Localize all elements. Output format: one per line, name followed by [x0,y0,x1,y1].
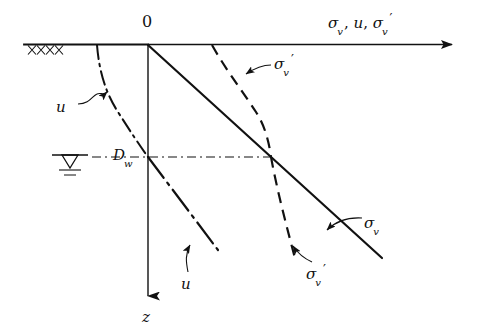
sigma-v-subscript: v [337,26,343,37]
axis-label-stresses: σv, u, σv′ [328,14,392,34]
stress-depth-diagram: σv, u, σv′ 0 Dw z u u σv σv′ σv′ [0,0,482,336]
curve-label-u-lower: u [181,275,191,293]
curve-u-below-water-table [148,157,218,250]
dw-subscript: w [124,158,133,169]
curve-label-sigma-v-eff-lower: σv′ [306,265,325,285]
u-symbol: u [353,14,363,32]
curve-label-u-upper: u [56,98,66,116]
leader-sigma-v-eff-upper [246,65,271,74]
leader-sigma-v-eff-lower [293,246,312,262]
curve-sigma-v-eff-above [212,45,271,157]
sigma-v-curve-subscript: v [373,226,379,237]
sigma-v-eff-curve-subscript-upper: v [283,67,289,78]
curve-label-sigma-v: σv [364,214,380,234]
leader-u-lower [186,245,190,272]
sigma-v-eff-curve-subscript-lower: v [315,277,321,288]
sigma-v-eff-prime: ′ [390,11,393,26]
sigma-v-eff-curve-prime-lower: ′ [323,262,326,277]
origin-label: 0 [142,12,152,31]
ground-hatch-icon [28,46,63,55]
sigma-v-eff-curve-prime-upper: ′ [291,52,294,67]
separator-2: , [363,14,368,32]
water-table-depth-label: Dw [113,146,134,166]
curve-sigma-v-eff-below [271,157,296,262]
leader-u-upper [78,92,107,104]
curve-u-above-water-table [97,45,148,157]
sigma-v-eff-subscript: v [382,26,388,37]
depth-axis-label: z [142,308,150,326]
curve-label-sigma-v-eff-upper: σv′ [274,55,293,75]
curve-sigma-v [148,45,382,258]
diagram-canvas [0,0,482,336]
water-table-icon [52,155,88,175]
separator-1: , [344,14,349,32]
